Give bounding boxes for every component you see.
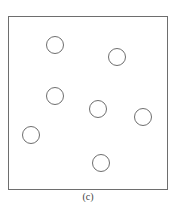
circle-6: [23, 127, 40, 144]
circle-4: [90, 101, 107, 118]
circle-2: [109, 49, 126, 66]
diagram-canvas: [0, 0, 176, 202]
circle-7: [93, 155, 110, 172]
circle-5: [135, 109, 152, 126]
circle-1: [47, 37, 64, 54]
circles-group: [23, 37, 152, 172]
circle-3: [47, 88, 64, 105]
frame-box: [9, 17, 168, 190]
figure-caption: (c): [0, 191, 176, 202]
